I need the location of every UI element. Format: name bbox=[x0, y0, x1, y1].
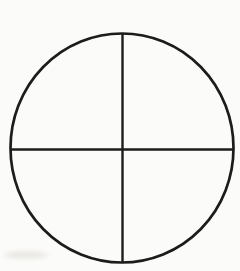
quartered-circle-figure bbox=[0, 0, 240, 271]
scanned-page-background bbox=[0, 0, 240, 271]
